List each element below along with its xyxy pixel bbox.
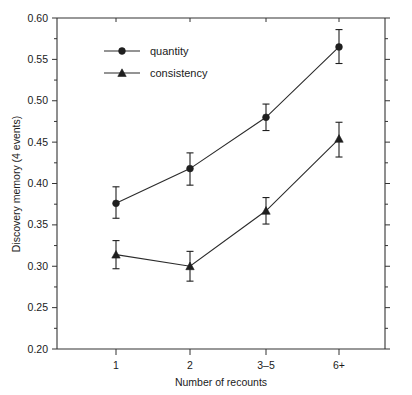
y-tick-label: 0.35 [28,218,49,230]
x-axis-title: Number of recounts [175,376,267,388]
y-tick-label: 0.60 [28,12,49,24]
data-point-circle [113,200,120,207]
y-tick-label: 0.20 [28,343,49,355]
x-tick-label: 3–5 [257,359,275,371]
legend-marker-circle [119,48,126,55]
data-point-circle [336,44,343,51]
y-tick-label: 0.40 [28,177,49,189]
legend-label: consistency [150,67,208,79]
data-point-circle [263,114,270,121]
x-tick-label: 6+ [333,359,345,371]
chart-figure: 0.200.250.300.350.400.450.500.550.60 123… [0,0,412,395]
x-tick-label: 1 [113,359,119,371]
y-tick-label: 0.55 [28,53,49,65]
y-tick-label: 0.45 [28,136,49,148]
y-axis-title: Discovery memory (4 events) [10,116,22,253]
chart-background [0,0,412,395]
legend-label: quantity [150,45,189,57]
y-tick-label: 0.50 [28,94,49,106]
x-tick-label: 2 [187,359,193,371]
data-point-circle [187,165,194,172]
y-tick-label: 0.25 [28,301,49,313]
y-tick-label: 0.30 [28,260,49,272]
line-chart-canvas: 0.200.250.300.350.400.450.500.550.60 123… [0,0,412,395]
